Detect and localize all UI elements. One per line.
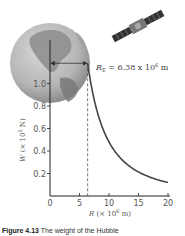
y-tick-label: 0.6 <box>33 125 46 134</box>
y-axis-title: W (× 105 N) <box>17 118 27 162</box>
y-tick-label: 1.0 <box>33 80 46 89</box>
x-tick-label: 0 <box>47 199 52 208</box>
satellite-icon <box>111 8 165 43</box>
x-axis-title: R (× 106 m) <box>88 208 131 218</box>
x-tick-label: 10 <box>104 199 114 208</box>
y-tick-label: 0.2 <box>33 170 46 179</box>
y-tick-label: 0.4 <box>33 147 46 156</box>
x-tick-label: 20 <box>163 199 173 208</box>
chart: 05101520 0.20.40.60.81.0 RE = 6.38 x 106… <box>0 0 185 236</box>
earth-radius-label: RE = 6.38 x 106 m <box>95 62 169 73</box>
weight-curve <box>88 63 168 182</box>
figure-caption: Figure 4.13 The weight of the Hubble <box>2 227 119 235</box>
y-tick-label: 0.8 <box>33 102 46 111</box>
x-tick-label: 5 <box>77 199 82 208</box>
x-tick-label: 15 <box>133 199 143 208</box>
